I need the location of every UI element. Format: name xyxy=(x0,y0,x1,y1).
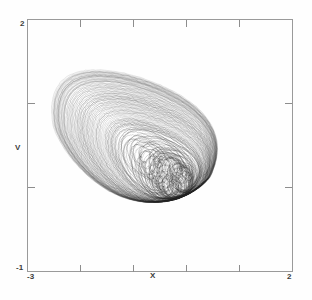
x-axis-max-label: 2 xyxy=(287,273,291,281)
x-tick-top xyxy=(186,20,187,27)
x-tick-bottom xyxy=(80,265,81,272)
x-axis-title: X xyxy=(150,272,155,280)
y-axis-title: V xyxy=(15,144,20,152)
x-axis-min-label: -3 xyxy=(27,273,34,281)
x-tick-bottom xyxy=(239,265,240,272)
y-axis-min-label: -1 xyxy=(16,264,23,272)
y-tick-left xyxy=(28,187,35,188)
y-tick-right xyxy=(285,103,292,104)
y-axis-max-label: 2 xyxy=(20,20,24,28)
attractor-plot xyxy=(28,20,292,271)
y-tick-left xyxy=(28,103,35,104)
x-tick-bottom xyxy=(133,265,134,272)
x-tick-top xyxy=(133,20,134,27)
x-tick-bottom xyxy=(186,265,187,272)
x-tick-top xyxy=(80,20,81,27)
figure-root: -3 2 -1 2 X V xyxy=(0,0,312,300)
y-tick-right xyxy=(285,187,292,188)
x-tick-top xyxy=(239,20,240,27)
